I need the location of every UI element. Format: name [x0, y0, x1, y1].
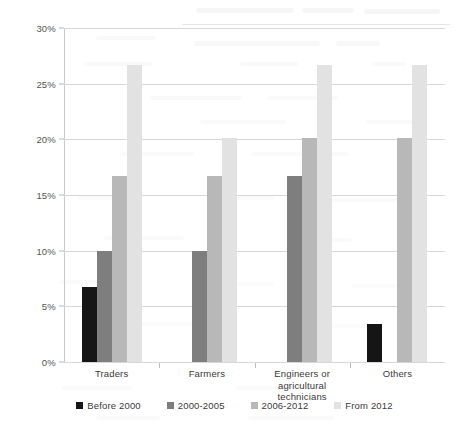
x-axis-category-label: Traders [64, 368, 159, 380]
y-axis-tick-mark [59, 306, 64, 307]
bar[interactable] [397, 138, 412, 362]
y-axis-tick-mark [59, 83, 64, 84]
y-axis-tick-label: 30% [6, 23, 56, 34]
x-axis-category-label: Others [350, 368, 445, 380]
bar[interactable] [112, 176, 127, 362]
bar-group [367, 28, 427, 362]
y-axis-tick-label: 10% [6, 245, 56, 256]
legend-swatch-icon [76, 402, 83, 409]
y-axis-tick-label: 15% [6, 190, 56, 201]
bar[interactable] [82, 287, 97, 362]
legend-label: Before 2000 [87, 400, 140, 411]
legend-item[interactable]: 2006-2012 [251, 400, 309, 411]
y-axis-tick-mark [59, 195, 64, 196]
y-axis-tick-mark [59, 28, 64, 29]
bar[interactable] [317, 65, 332, 362]
bar[interactable] [127, 65, 142, 362]
bar[interactable] [412, 65, 427, 362]
legend-label: 2006-2012 [262, 400, 309, 411]
plot-area [64, 28, 445, 363]
grouped-bar-chart: 0%5%10%15%20%25%30% TradersFarmersEngine… [0, 0, 469, 427]
legend-label: From 2012 [345, 400, 392, 411]
bar[interactable] [287, 176, 302, 362]
legend-item[interactable]: 2000-2005 [167, 400, 225, 411]
bar[interactable] [302, 138, 317, 362]
y-axis-tick-label: 0% [6, 357, 56, 368]
y-axis-tick-label: 25% [6, 78, 56, 89]
legend-swatch-icon [251, 402, 258, 409]
x-axis-category-label: Farmers [159, 368, 254, 380]
bar-group [272, 28, 332, 362]
bar[interactable] [367, 324, 382, 362]
bar[interactable] [192, 251, 207, 362]
legend-item[interactable]: From 2012 [334, 400, 392, 411]
y-axis-tick-mark [59, 362, 64, 363]
y-axis-tick-mark [59, 139, 64, 140]
y-axis-tick-mark [59, 250, 64, 251]
bar[interactable] [207, 176, 222, 362]
legend-label: 2000-2005 [178, 400, 225, 411]
chart-legend: Before 20002000-20052006-2012From 2012 [0, 400, 469, 411]
bar[interactable] [222, 138, 237, 362]
legend-item[interactable]: Before 2000 [76, 400, 140, 411]
legend-swatch-icon [167, 402, 174, 409]
bar[interactable] [97, 251, 112, 362]
x-axis-category-label: Engineers or agricultural technicians [255, 368, 350, 403]
y-axis-tick-label: 5% [6, 301, 56, 312]
legend-swatch-icon [334, 402, 341, 409]
bar-group [177, 28, 237, 362]
bar-group [82, 28, 142, 362]
y-axis-tick-label: 20% [6, 134, 56, 145]
